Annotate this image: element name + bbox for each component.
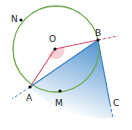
point-M <box>58 89 61 92</box>
point-A <box>28 85 31 88</box>
label-N: N <box>11 14 18 24</box>
geometry-diagram: N O B A M C <box>0 0 132 130</box>
label-C: C <box>113 98 119 108</box>
label-A: A <box>26 93 33 103</box>
point-O <box>53 47 56 50</box>
point-B <box>96 38 99 41</box>
label-M: M <box>55 98 63 108</box>
label-O: O <box>49 34 56 44</box>
label-B: B <box>95 28 101 38</box>
point-N <box>19 18 22 21</box>
